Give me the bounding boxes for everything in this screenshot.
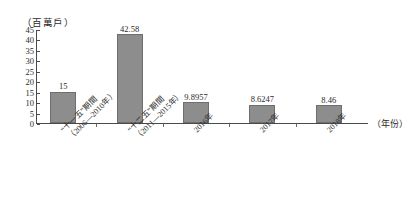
y-tick-mark <box>37 72 40 73</box>
bar-value-label: 8.46 <box>321 96 336 105</box>
bar-value-label: 15 <box>59 82 68 91</box>
y-tick-mark <box>37 124 40 125</box>
bar: 42.58 <box>117 34 143 123</box>
x-tick-mark <box>296 124 297 127</box>
x-tick-mark <box>229 124 230 127</box>
y-tick-label: 10 <box>26 99 35 108</box>
y-tick-label: 35 <box>26 47 35 56</box>
y-tick-mark <box>37 30 40 31</box>
x-axis-title: （年份） <box>372 117 408 130</box>
y-tick-label: 30 <box>26 57 35 66</box>
y-tick-mark <box>37 82 40 83</box>
y-tick-mark <box>37 40 40 41</box>
y-tick-label: 25 <box>26 68 35 77</box>
y-tick-mark <box>37 61 40 62</box>
x-tick-mark <box>163 124 164 127</box>
y-tick-label: 45 <box>26 26 35 35</box>
y-tick-label: 0 <box>30 120 34 129</box>
bar-value-label: 9.8957 <box>184 93 207 102</box>
y-tick-mark <box>37 93 40 94</box>
bar-value-label: 8.6247 <box>251 95 274 104</box>
y-tick-mark <box>37 103 40 104</box>
y-axis-line <box>36 30 37 124</box>
y-tick-mark <box>37 114 40 115</box>
x-tick-mark <box>96 124 97 127</box>
y-tick-label: 20 <box>26 78 35 87</box>
bar-value-label: 42.58 <box>120 25 139 34</box>
bar-chart: （百萬戶） 454035302520151050 1542.589.89578.… <box>0 0 410 206</box>
y-tick-label: 15 <box>26 88 35 97</box>
y-tick-mark <box>37 51 40 52</box>
y-tick-label: 5 <box>30 109 34 118</box>
y-tick-label: 40 <box>26 36 35 45</box>
